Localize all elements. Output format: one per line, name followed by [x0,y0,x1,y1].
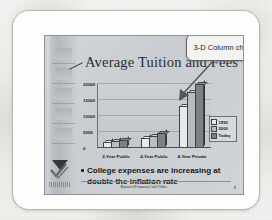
chart-x-tick-label: 4-Year Private [177,154,206,159]
slide-number: 3 [234,185,236,190]
chart-legend-item: 2000 [211,126,235,132]
chart-legend-item: Today [211,133,235,139]
chart-bar-face [157,133,166,148]
chart-y-tick-label: 5000 [83,130,93,135]
chart-x-tick-label: 2-Year Public [102,154,130,159]
chart-bar [179,108,186,148]
pen-stroke-mark-icon [69,62,83,70]
callout-label: 3-D Column chart [194,43,244,52]
presentation-slide: Average Tuition and Fees 050001000015000… [44,35,244,195]
chart-bar-group [103,84,127,148]
chart-legend: 19932000Today [209,116,237,142]
chart-y-tick-label: 10000 [83,114,95,119]
chart-legend-label: 1993 [219,120,228,125]
callout-arrow-icon [171,56,219,104]
chart-legend-swatch [211,126,217,132]
footer-divider [81,181,231,182]
chart-legend-swatch [211,119,217,125]
chart-y-tick-label: 15000 [83,98,95,103]
chart-y-tick-label: 0 [83,146,85,151]
bullet-marker-icon [81,169,84,172]
chart-axis-floor [97,147,211,148]
triangle-checkmark-logo-icon [49,158,71,180]
callout-box: 3-D Column chart [186,35,244,61]
slide-footer: Bursar's/Financial Aid Office [45,184,243,189]
chart-bar-group [141,84,165,148]
chart-x-tick-label: 4-Year Public [140,154,168,159]
chart-legend-label: Today [219,133,231,138]
chart-legend-label: 2000 [219,126,228,131]
chart-legend-swatch [211,133,217,139]
slide-frame: Average Tuition and Fees 050001000015000… [12,10,260,210]
chart-legend-item: 1993 [211,119,235,125]
chart-y-tick-label: 20000 [83,82,95,87]
